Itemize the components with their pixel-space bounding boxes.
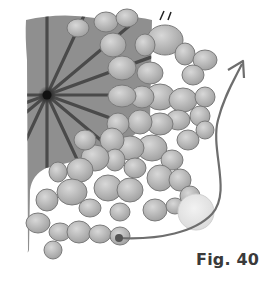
cell bbox=[94, 12, 118, 32]
cell bbox=[128, 110, 152, 134]
cell bbox=[117, 178, 143, 202]
cell bbox=[100, 33, 126, 57]
cell bbox=[44, 241, 62, 259]
cell bbox=[116, 9, 138, 27]
cell bbox=[74, 130, 96, 150]
cell bbox=[143, 199, 167, 221]
cell bbox=[89, 225, 111, 243]
cell bbox=[182, 65, 204, 85]
cell bbox=[108, 56, 136, 80]
cell bbox=[67, 221, 91, 243]
cell bbox=[26, 213, 50, 233]
cell bbox=[196, 121, 214, 139]
cell bbox=[110, 203, 130, 221]
cell bbox=[195, 87, 215, 107]
cell bbox=[36, 189, 58, 211]
cell bbox=[67, 158, 93, 182]
cell bbox=[124, 158, 146, 178]
cell bbox=[177, 130, 199, 150]
cell bbox=[137, 62, 163, 84]
cell-diagram bbox=[0, 0, 276, 283]
cell bbox=[108, 85, 136, 107]
cell bbox=[135, 34, 155, 56]
cell bbox=[49, 162, 67, 182]
cell bbox=[57, 179, 87, 205]
cell bbox=[67, 19, 89, 37]
cell bbox=[175, 43, 195, 65]
figure-caption: Fig. 40 bbox=[196, 250, 259, 269]
